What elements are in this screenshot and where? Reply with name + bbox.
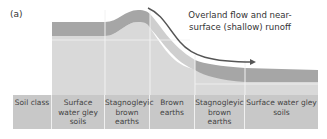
soil-cell-header: Soil class xyxy=(13,95,52,129)
runoff-annotation: Overland flow and near-surface (shallow)… xyxy=(178,9,302,33)
soil-cell: Surface water gley soils xyxy=(245,95,318,129)
soil-cell: Brown earths xyxy=(150,95,195,129)
soil-cell: Stagnogleyic brown earths xyxy=(105,95,150,129)
soil-cell: Stagnogleyic brown earths xyxy=(195,95,245,129)
soil-cell: Surface water gley soils xyxy=(52,95,105,129)
soil-class-table: Soil class Surface water gley soils Stag… xyxy=(13,95,318,129)
arrowhead-icon xyxy=(250,59,256,65)
